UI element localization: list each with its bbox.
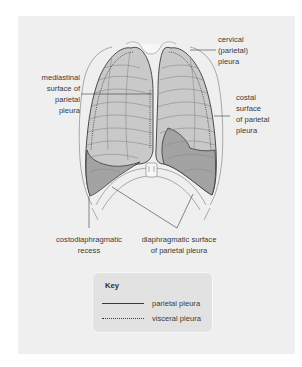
label-line: of parietal — [236, 114, 269, 125]
key-item-label: visceral pleura — [152, 313, 201, 324]
key-item-parietal: parietal pleura — [102, 298, 212, 309]
label-line: costal — [236, 92, 269, 103]
label-cervical-pleura: cervical (parietal) pleura — [218, 34, 248, 67]
solid-line-swatch — [102, 303, 144, 304]
label-costodiaphragmatic-recess: costodiaphragmatic recess — [46, 234, 132, 256]
label-line: diaphragmatic surface — [132, 234, 226, 245]
label-mediastinal-surface: mediastinal surface of parietal pleura — [30, 72, 80, 116]
label-line: cervical — [218, 34, 248, 45]
key-item-label: parietal pleura — [152, 298, 200, 309]
label-line: surface of — [30, 83, 80, 94]
key-item-visceral: visceral pleura — [102, 313, 212, 324]
label-line: pleura — [218, 56, 248, 67]
label-line: mediastinal — [30, 72, 80, 83]
label-line: pleura — [236, 125, 269, 136]
dotted-line-swatch — [102, 318, 144, 319]
label-line: pleura — [30, 105, 80, 116]
label-line: (parietal) — [218, 45, 248, 56]
label-line: surface — [236, 103, 269, 114]
label-line: costodiaphragmatic — [46, 234, 132, 245]
key-legend: Key parietal pleura visceral pleura — [92, 272, 213, 333]
right-lung — [156, 47, 217, 195]
label-costal-surface: costal surface of parietal pleura — [236, 92, 269, 136]
label-line: parietal — [30, 94, 80, 105]
label-line: recess — [46, 245, 132, 256]
label-line: of parietal pleura — [132, 245, 226, 256]
vertebra — [146, 163, 157, 177]
key-title: Key — [105, 281, 119, 290]
left-lung — [86, 47, 153, 196]
label-diaphragmatic-surface: diaphragmatic surface of parietal pleura — [132, 234, 226, 256]
